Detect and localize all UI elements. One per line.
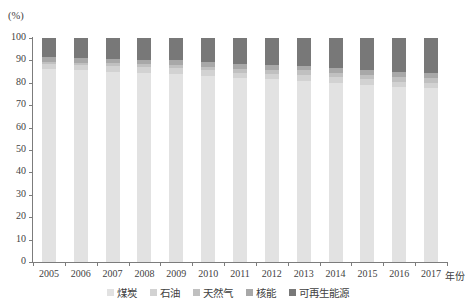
- legend-item-label: 石油: [160, 285, 180, 300]
- x-axis-line: [32, 262, 447, 263]
- stacked-bar: [201, 38, 215, 262]
- y-axis-tick-label: 70: [16, 98, 26, 109]
- bar-segment: [360, 79, 374, 85]
- stacked-bar: [106, 38, 120, 262]
- y-axis-tick-mark: [29, 128, 33, 129]
- stacked-bar: [392, 38, 406, 262]
- bar-segment: [74, 63, 88, 65]
- bar-segment: [169, 74, 183, 262]
- bar-segment: [233, 64, 247, 68]
- bar-segment: [297, 70, 311, 74]
- x-axis-tick-label: 2008: [129, 268, 161, 279]
- legend-item-label: 可再生能源: [299, 285, 349, 300]
- y-axis-tick-mark: [29, 105, 33, 106]
- y-axis-tick-mark: [29, 217, 33, 218]
- bar-segment: [297, 66, 311, 70]
- bar-segment: [137, 67, 151, 73]
- bar-segment: [106, 66, 120, 72]
- bar-segment: [360, 85, 374, 262]
- bar-segment: [74, 58, 88, 62]
- bar-segment: [137, 64, 151, 67]
- bar-segment: [42, 69, 56, 262]
- x-axis-tick-mark: [224, 262, 225, 266]
- y-axis-tick-label: 0: [21, 255, 26, 266]
- x-axis-title: 年份: [445, 268, 465, 283]
- bar-segment: [424, 38, 438, 73]
- y-axis-tick-mark: [29, 38, 33, 39]
- y-axis-tick-label: 30: [16, 188, 26, 199]
- legend-item[interactable]: 石油: [150, 285, 180, 300]
- bar-segment: [42, 64, 56, 70]
- bar-segment: [106, 72, 120, 262]
- x-axis-tick-label: 2013: [288, 268, 320, 279]
- bar-segment: [42, 62, 56, 64]
- bar-segment: [106, 59, 120, 63]
- y-axis-tick-mark: [29, 195, 33, 196]
- bar-segment: [74, 38, 88, 58]
- x-axis-tick-mark: [447, 262, 448, 266]
- x-axis-tick-mark: [415, 262, 416, 266]
- stacked-bar: [265, 38, 279, 262]
- x-axis-tick-mark: [256, 262, 257, 266]
- bar-segment: [137, 73, 151, 262]
- bar-segment: [424, 88, 438, 262]
- bar-segment: [392, 77, 406, 82]
- bar-segment: [201, 62, 215, 66]
- bar-segment: [392, 38, 406, 72]
- bar-segment: [297, 75, 311, 81]
- x-axis-tick-label: 2011: [224, 268, 256, 279]
- y-axis-tick-mark: [29, 83, 33, 84]
- y-axis-tick-label: 40: [16, 165, 26, 176]
- legend-item[interactable]: 天然气: [193, 285, 233, 300]
- stacked-bar: [233, 38, 247, 262]
- y-axis-tick-mark: [29, 150, 33, 151]
- bar-segment: [424, 83, 438, 89]
- bar-segment: [360, 75, 374, 80]
- bar-segment: [201, 38, 215, 62]
- x-axis-tick-mark: [320, 262, 321, 266]
- legend-swatch-icon: [150, 289, 157, 296]
- bar-segment: [424, 78, 438, 83]
- bar-segment: [106, 63, 120, 66]
- bar-segment: [329, 68, 343, 72]
- x-axis-tick-label: 2017: [415, 268, 447, 279]
- x-axis-tick-mark: [351, 262, 352, 266]
- bar-segment: [265, 79, 279, 262]
- bar-segment: [42, 38, 56, 57]
- legend-item[interactable]: 煤炭: [107, 285, 137, 300]
- y-axis-tick-mark: [29, 172, 33, 173]
- stacked-bar: [360, 38, 374, 262]
- bar-segment: [201, 67, 215, 71]
- bar-segment: [265, 74, 279, 80]
- x-axis-tick-mark: [33, 262, 34, 266]
- stacked-bar: [424, 38, 438, 262]
- x-axis-tick-mark: [383, 262, 384, 266]
- legend-item[interactable]: 核能: [246, 285, 276, 300]
- stacked-bar: [297, 38, 311, 262]
- bar-segment: [137, 60, 151, 64]
- y-axis-tick-label: 10: [16, 233, 26, 244]
- bar-segment: [297, 81, 311, 262]
- stacked-bar: [329, 38, 343, 262]
- bar-segment: [265, 70, 279, 74]
- legend-item[interactable]: 可再生能源: [289, 285, 349, 300]
- bar-segment: [233, 78, 247, 262]
- bar-segment: [392, 87, 406, 262]
- legend-swatch-icon: [289, 289, 296, 296]
- stacked-bar: [42, 38, 56, 262]
- x-axis-tick-mark: [97, 262, 98, 266]
- x-axis-tick-label: 2007: [97, 268, 129, 279]
- bar-segment: [329, 73, 343, 77]
- bar-segment: [233, 73, 247, 79]
- y-axis-tick-label: 20: [16, 210, 26, 221]
- bar-segment: [233, 69, 247, 73]
- y-axis-tick-mark: [29, 60, 33, 61]
- x-axis-tick-mark: [129, 262, 130, 266]
- x-axis-tick-mark: [288, 262, 289, 266]
- x-axis-tick-label: 2014: [320, 268, 352, 279]
- bar-segment: [169, 60, 183, 64]
- legend-item-label: 天然气: [203, 285, 233, 300]
- y-axis-tick-label: 100: [11, 31, 26, 42]
- x-axis-tick-label: 2009: [160, 268, 192, 279]
